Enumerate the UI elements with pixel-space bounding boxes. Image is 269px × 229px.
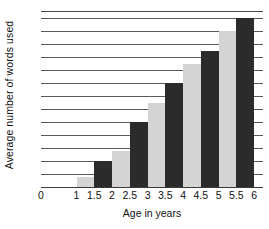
bar xyxy=(201,51,219,187)
x-axis-tick-label: 1 xyxy=(74,189,80,202)
bar xyxy=(219,31,237,187)
x-axis-line xyxy=(41,187,263,188)
x-axis-tick-label: 2.5 xyxy=(122,189,137,202)
bar xyxy=(130,122,148,187)
y-axis-title: Average number of words used xyxy=(0,0,18,190)
bar xyxy=(165,83,183,187)
bars-layer xyxy=(41,12,263,187)
x-axis-tick-label: 4 xyxy=(180,189,186,202)
y-axis-title-label: Average number of words used xyxy=(3,21,15,170)
bar-chart-figure: Average number of words used 26002400220… xyxy=(0,0,269,229)
bar xyxy=(148,103,166,187)
plot-area: 2600240022002000180016001400120010008006… xyxy=(41,11,263,187)
x-axis-tick-label: 3 xyxy=(145,189,151,202)
x-axis-title: Age in years xyxy=(41,207,263,219)
x-axis-tick-label: 0 xyxy=(38,189,44,202)
x-axis-tick-label: 2 xyxy=(109,189,115,202)
bar xyxy=(112,151,130,187)
x-axis-tick-label: 4.5 xyxy=(194,189,209,202)
bar xyxy=(236,18,254,187)
bar xyxy=(183,64,201,187)
bar xyxy=(77,177,95,187)
x-axis-tick-label: 6 xyxy=(251,189,257,202)
x-axis-tick-label: 3.5 xyxy=(158,189,173,202)
x-axis-tick-label: 5.5 xyxy=(229,189,244,202)
x-axis-tick-labels: 011.522.533.544.555.56 xyxy=(41,189,263,204)
x-axis-tick-label: 5 xyxy=(216,189,222,202)
x-axis-tick-label: 1.5 xyxy=(87,189,102,202)
bar xyxy=(94,161,112,187)
